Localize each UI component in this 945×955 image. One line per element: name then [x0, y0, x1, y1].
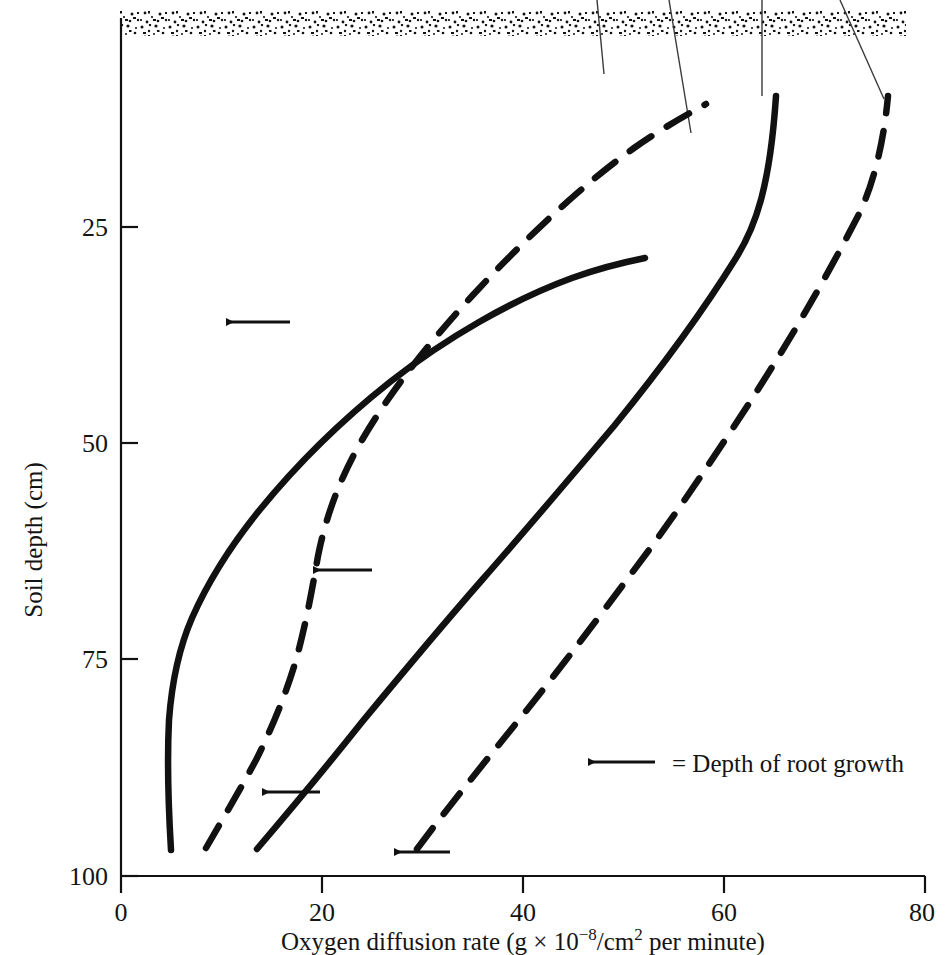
y-tick-label-75: 75 — [82, 645, 108, 674]
y-axis-title: Soil depth (cm) — [20, 462, 48, 618]
x-axis-title-tail: /cm — [597, 928, 635, 955]
soil-surface-band — [120, 11, 906, 36]
x-tick-label-0: 0 — [115, 898, 128, 927]
figure-background — [0, 0, 945, 955]
x-axis-title-exponent: −8 — [579, 925, 597, 944]
x-tick-label-20: 20 — [309, 898, 335, 927]
oxygen-diffusion-soil-depth-figure: 25 50 75 100 0 20 40 60 80 Soil depth (c… — [0, 0, 945, 955]
x-tick-label-80: 80 — [909, 898, 935, 927]
x-tick-label-40: 40 — [510, 898, 536, 927]
x-axis-title-exponent2: 2 — [634, 925, 643, 944]
y-tick-label-50: 50 — [82, 429, 108, 458]
x-axis-title: Oxygen diffusion rate (g × 10−8/cm2 per … — [281, 925, 765, 955]
y-tick-label-25: 25 — [82, 213, 108, 242]
x-axis-title-main: Oxygen diffusion rate (g × 10 — [281, 928, 579, 955]
legend-label: = Depth of root growth — [672, 750, 905, 777]
y-tick-label-100: 100 — [69, 862, 108, 891]
x-axis-title-tail2: per minute) — [643, 928, 765, 955]
x-tick-label-60: 60 — [711, 898, 737, 927]
chart-canvas: 25 50 75 100 0 20 40 60 80 Soil depth (c… — [0, 0, 945, 955]
